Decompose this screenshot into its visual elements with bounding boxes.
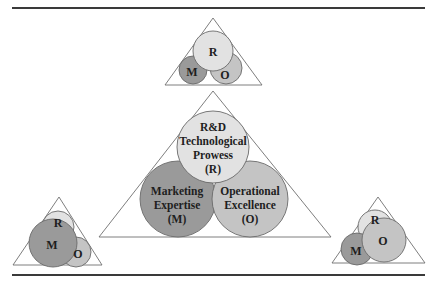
bottom-right-label-o: O (378, 234, 387, 248)
capability-triangle-diagram: R M O R&D Technological Prowess (R) Mark… (0, 0, 438, 283)
top-label-o: O (220, 68, 229, 82)
main-label-o-line1: Operational (220, 185, 279, 198)
main-label-r-line4: (R) (205, 163, 221, 176)
main-label-m-line1: Marketing (151, 185, 204, 198)
bottom-right-triangle-group-o-emphasis: R M O (332, 197, 425, 265)
bottom-left-label-o: O (73, 247, 82, 261)
bottom-left-label-r: R (54, 216, 63, 230)
bottom-right-label-m: M (350, 244, 361, 258)
main-label-m-line3: (M) (168, 213, 187, 226)
bottom-left-label-m: M (46, 238, 57, 252)
top-label-r: R (209, 45, 218, 59)
bottom-left-triangle-group-m-emphasis: R M O (13, 197, 102, 267)
top-label-m: M (186, 65, 197, 79)
top-triangle-group-r-emphasis: R M O (165, 18, 262, 85)
main-label-o-line3: (O) (242, 213, 259, 226)
main-label-r-line3: Prowess (193, 149, 234, 161)
bottom-right-label-r: R (371, 213, 380, 227)
main-label-m-line2: Expertise (154, 199, 201, 212)
main-triangle-group: R&D Technological Prowess (R) Marketing … (99, 91, 331, 237)
main-label-r-line1: R&D (200, 121, 226, 133)
main-label-o-line2: Excellence (224, 199, 276, 211)
main-label-r-line2: Technological (179, 135, 246, 148)
